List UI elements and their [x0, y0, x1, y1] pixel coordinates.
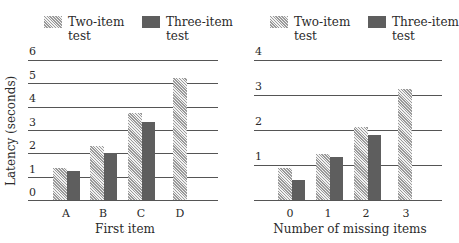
legend-label: test	[392, 29, 415, 43]
x-tick: C	[131, 207, 151, 220]
x-tick: 0	[280, 207, 300, 220]
legend-label: Three-item	[392, 15, 459, 29]
bar-three-item-C	[142, 122, 155, 200]
x-tick: 1	[318, 207, 338, 220]
bar-two-item-0	[278, 168, 292, 200]
y-tick: 1	[255, 151, 262, 163]
gridline	[254, 60, 442, 61]
y-tick: 1	[29, 164, 36, 176]
bar-three-item-2	[368, 135, 381, 200]
y-tick: 3	[255, 81, 262, 93]
bar-two-item-C	[128, 113, 142, 200]
gridline	[254, 95, 442, 96]
y-tick: 4	[255, 46, 262, 58]
legend-label: Two-item	[294, 15, 350, 29]
bar-three-item-B	[104, 153, 117, 200]
y-tick: 2	[255, 116, 262, 128]
x-axis-label: First item	[70, 222, 180, 236]
y-tick: 3	[29, 117, 36, 129]
legend-label: test	[166, 29, 189, 43]
x-tick: A	[56, 207, 76, 220]
x-tick: D	[170, 207, 190, 220]
solid-swatch-icon	[368, 16, 386, 28]
gridline	[254, 165, 442, 166]
bar-two-item-2	[354, 127, 368, 200]
bar-three-item-A	[67, 171, 80, 200]
x-axis	[28, 200, 218, 201]
bar-two-item-B	[90, 146, 104, 200]
bar-two-item-A	[53, 168, 67, 200]
bar-three-item-1	[330, 157, 343, 200]
solid-swatch-icon	[142, 16, 160, 28]
gridline	[28, 107, 218, 108]
y-axis-label: Latency (seconds)	[4, 76, 18, 186]
x-tick: B	[93, 207, 113, 220]
y-tick: 2	[29, 140, 36, 152]
bar-two-item-D	[173, 78, 187, 200]
gridline	[28, 130, 218, 131]
gridline	[28, 60, 218, 61]
bar-two-item-3	[398, 89, 412, 200]
hatch-swatch-icon	[270, 16, 288, 28]
y-tick: 4	[29, 93, 36, 105]
gridline	[254, 130, 442, 131]
x-axis	[254, 200, 442, 201]
gridline	[28, 153, 218, 154]
legend-label: Three-item	[166, 15, 233, 29]
hatch-swatch-icon	[44, 16, 62, 28]
gridline	[28, 83, 218, 84]
y-tick: 0	[29, 187, 36, 199]
bar-two-item-1	[316, 154, 330, 200]
x-tick: 2	[356, 207, 376, 220]
y-tick: 5	[29, 70, 36, 82]
bar-three-item-0	[292, 180, 305, 200]
right-chart: Two-item test Three-item test 4 3 2 1 0 …	[230, 0, 456, 243]
y-tick: 6	[29, 46, 36, 58]
legend-label: test	[68, 29, 91, 43]
legend-label: test	[294, 29, 317, 43]
x-axis-label: Number of missing items	[270, 222, 430, 236]
legend-label: Two-item	[68, 15, 124, 29]
left-chart: Two-item test Three-item test Latency (s…	[0, 0, 230, 243]
x-tick: 3	[396, 207, 416, 220]
